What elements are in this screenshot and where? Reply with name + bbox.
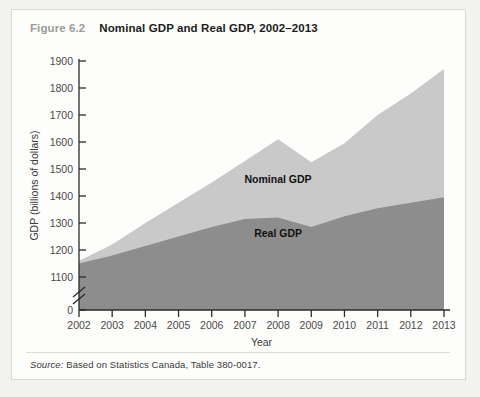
y-tick-label: 0 xyxy=(67,304,73,316)
source-note: Source: Based on Statistics Canada, Tabl… xyxy=(30,359,260,370)
y-tick-label: 1500 xyxy=(50,163,74,175)
x-axis-title: Year xyxy=(251,336,273,348)
divider xyxy=(26,352,450,353)
x-tick-label: 2010 xyxy=(333,319,357,331)
y-tick-label: 1200 xyxy=(50,244,74,256)
y-axis-title: GDP (billions of dollars) xyxy=(28,130,40,240)
x-tick-label: 2005 xyxy=(167,319,191,331)
x-tick-label: 2011 xyxy=(366,319,389,331)
y-tick-label: 1100 xyxy=(50,271,73,283)
series-label-real-gdp: Real GDP xyxy=(254,227,302,239)
y-tick-label: 1900 xyxy=(50,55,74,67)
x-tick-label: 2006 xyxy=(200,319,224,331)
y-tick-label: 1600 xyxy=(50,136,74,148)
source-text: Based on Statistics Canada, Table 380-00… xyxy=(63,359,260,370)
x-tick-label: 2013 xyxy=(432,319,456,331)
area-chart: 0110012001300140015001600170018001900200… xyxy=(12,10,467,381)
y-tick-label: 1400 xyxy=(50,190,74,202)
x-tick-label: 2003 xyxy=(101,319,125,331)
series-label-nominal-gdp: Nominal GDP xyxy=(245,173,312,185)
y-tick-label: 1800 xyxy=(50,82,74,94)
x-tick-label: 2008 xyxy=(266,319,290,331)
x-tick-label: 2007 xyxy=(233,319,257,331)
source-label: Source: xyxy=(30,359,63,370)
y-tick-label: 1300 xyxy=(50,217,74,229)
x-tick-label: 2009 xyxy=(300,319,324,331)
x-tick-label: 2004 xyxy=(134,319,158,331)
x-tick-label: 2002 xyxy=(67,319,91,331)
figure-container: Figure 6.2 Nominal GDP and Real GDP, 200… xyxy=(11,9,466,380)
x-tick-label: 2012 xyxy=(399,319,423,331)
y-tick-label: 1700 xyxy=(50,109,74,121)
